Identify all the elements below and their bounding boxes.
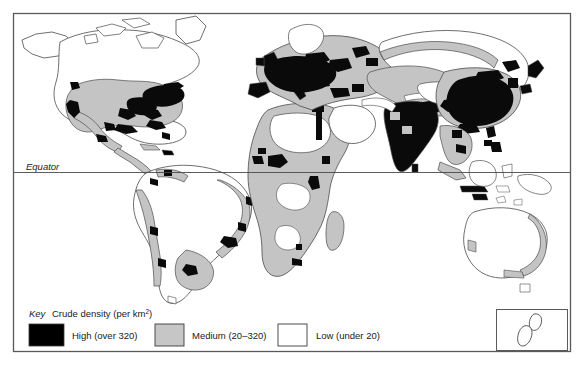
landmass-ireland: [256, 58, 264, 66]
density-high-ghana: [258, 148, 266, 154]
legend-key-label: Key: [29, 308, 47, 319]
high-swatch: [29, 324, 64, 346]
low-swatch: [278, 324, 307, 346]
population-density-map-figure: Equator Key Crude density (per km2) High…: [0, 0, 583, 373]
density-high-ethiopia: [322, 156, 330, 164]
legend-title: Crude density (per km2): [52, 308, 152, 320]
density-high-volga: [366, 58, 378, 66]
legend-label-high: High (over 320): [72, 330, 137, 341]
landmass-victoria-island: [84, 34, 98, 44]
density-high-johannesburg: [296, 244, 302, 250]
density-high-caracas: [164, 170, 172, 176]
density-high-nile-valley: [316, 110, 322, 140]
density-medium-perth: [468, 240, 476, 252]
new-zealand-inset: [497, 310, 568, 351]
landmass-japan-south: [520, 84, 532, 94]
world-map-svg: Equator Key Crude density (per km2) High…: [0, 0, 583, 373]
landmass-java: [460, 186, 488, 192]
density-medium-deccan-patch: [402, 126, 412, 134]
landmass-sulawesi: [502, 164, 512, 178]
legend-label-medium: Medium (20–320): [192, 330, 266, 341]
landmass-philippines-mid: [484, 140, 492, 146]
density-medium-rajasthan: [390, 112, 400, 120]
landmass-pacific-island-2: [514, 199, 522, 205]
legend-label-low: Low (under 20): [316, 330, 380, 341]
density-high-caucasus: [352, 84, 364, 92]
landmass-sri-lanka: [412, 164, 418, 172]
density-high-korea: [508, 78, 518, 88]
density-high-red-river: [452, 130, 462, 138]
landmass-java-east: [472, 194, 488, 200]
landmass-tasmania: [520, 284, 530, 292]
density-high-west-africa: [252, 156, 264, 164]
medium-swatch: [155, 324, 184, 346]
landmass-timor: [496, 186, 510, 192]
legend-title-superscript: 2: [145, 308, 149, 315]
